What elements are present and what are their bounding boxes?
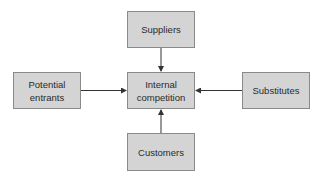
node-left-line-1: Potential (29, 78, 66, 91)
node-internal-competition: Internal competition (127, 72, 195, 109)
node-center-line-2: competition (137, 91, 186, 104)
node-substitutes-label: Substitutes (253, 84, 300, 97)
node-substitutes: Substitutes (242, 72, 310, 109)
node-center-line-1: Internal (145, 78, 177, 91)
node-left-line-2: entrants (30, 91, 64, 104)
node-suppliers-label: Suppliers (141, 23, 181, 36)
node-customers-label: Customers (138, 146, 184, 159)
node-suppliers: Suppliers (127, 11, 195, 48)
node-customers: Customers (127, 133, 195, 171)
node-potential-entrants: Potential entrants (13, 72, 81, 109)
